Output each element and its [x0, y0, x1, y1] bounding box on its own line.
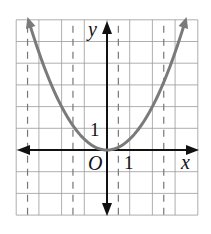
- y-axis-label: y: [88, 19, 97, 39]
- x-axis-label: x: [181, 152, 190, 172]
- x-tick-label-1: 1: [124, 153, 134, 172]
- origin-label: O: [88, 153, 102, 173]
- coordinate-plane: [0, 0, 211, 234]
- y-tick-label-1: 1: [90, 120, 100, 139]
- y-axis-down-arrow-icon: [102, 203, 112, 216]
- y-axis-up-arrow-icon: [102, 21, 112, 34]
- curve-right-arrow-icon: [179, 17, 189, 29]
- x-axis-left-arrow-icon: [17, 145, 30, 155]
- curve-left-arrow-icon: [26, 17, 36, 29]
- axes: [17, 21, 199, 216]
